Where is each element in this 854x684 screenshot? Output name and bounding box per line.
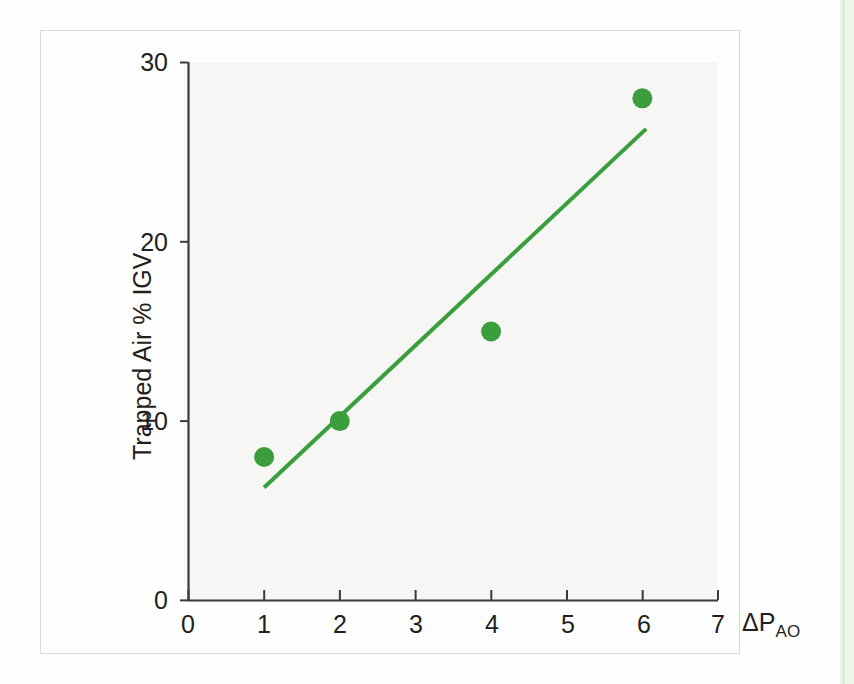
x-tick-label-3: 3 [409, 612, 423, 637]
y-tick-label-0: 0 [112, 588, 168, 613]
x-tick-label-1: 1 [257, 612, 271, 637]
x-tick-label-6: 6 [637, 612, 651, 637]
trend-line [264, 129, 646, 488]
data-point-marker [632, 88, 652, 108]
data-point-marker [481, 321, 501, 341]
x-tick-label-4: 4 [485, 612, 499, 637]
data-point-marker [254, 447, 274, 467]
y-axis-ticks [180, 63, 188, 601]
x-tick-label-2: 2 [333, 612, 347, 637]
x-axis-ticks [189, 590, 719, 600]
data-point-marker [330, 411, 350, 431]
x-tick-label-0: 0 [181, 612, 195, 637]
x-axis-title-main: ΔP [742, 608, 775, 636]
x-axis-title: ΔPAO [742, 608, 800, 642]
y-axis-title: Trapped Air % IGV [128, 253, 157, 461]
data-point-group [254, 88, 652, 467]
x-tick-label-5: 5 [561, 612, 575, 637]
x-tick-label-7: 7 [711, 612, 725, 637]
x-axis-title-subscript: AO [775, 622, 800, 641]
y-tick-label-20: 20 [112, 230, 168, 255]
figure-root: 30 20 10 0 0 1 2 3 4 5 6 7 Trapped Air %… [0, 0, 854, 684]
y-tick-label-30: 30 [112, 50, 168, 75]
axis-lines [188, 62, 718, 601]
